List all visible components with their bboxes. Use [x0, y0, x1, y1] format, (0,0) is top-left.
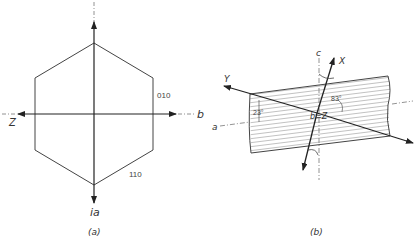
face-label-110: 110 — [129, 170, 142, 179]
figure-b: c X Y a b=Z 23° 83° (b) — [212, 48, 413, 237]
axis-label-c: c — [316, 48, 321, 58]
center-label-b-equals-z: b=Z — [310, 112, 328, 121]
a-axis-right — [392, 101, 413, 104]
axis-label-ia: ia — [90, 206, 100, 219]
a-axis — [220, 122, 250, 126]
angle-arc-bottom — [308, 150, 318, 155]
angle-label-83: 83° — [331, 95, 342, 102]
axis-label-x: X — [338, 56, 346, 66]
caption-b: (b) — [310, 227, 323, 237]
axis-label-b: b — [197, 108, 204, 121]
axis-label-a: a — [212, 122, 218, 132]
y-axis-arrow-right — [317, 113, 413, 143]
face-label-010: 010 — [157, 91, 171, 100]
axis-label-z: Z — [8, 117, 17, 128]
x-axis-arrow-down — [303, 113, 317, 170]
angle-arc-top — [319, 74, 334, 79]
diagram-canvas: b Z 010 110 ia (a) — [0, 0, 415, 240]
y-axis-arrow-left — [224, 86, 317, 113]
caption-a: (a) — [88, 227, 101, 237]
axis-label-y: Y — [224, 74, 231, 84]
figure-a: b Z 010 110 ia (a) — [2, 2, 204, 237]
angle-label-23: 23° — [253, 109, 264, 116]
